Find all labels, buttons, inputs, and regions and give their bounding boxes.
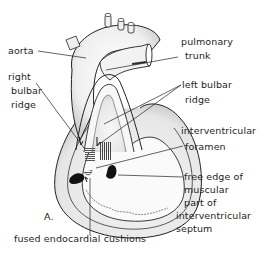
label-free-edge-5: septum (176, 223, 212, 234)
label-right-bulbar-ridge-2: bulbar (11, 85, 42, 96)
label-pulmonary-trunk-2: trunk (185, 50, 211, 61)
label-interventricular-foramen-1: interventricular (181, 125, 256, 136)
label-interventricular-foramen-2: foramen (185, 141, 226, 152)
label-left-bulbar-ridge-2: ridge (185, 94, 210, 105)
right-bulbar-ridge-shape (85, 148, 95, 162)
left-bulbar-ridge-shape (99, 142, 111, 160)
label-right-bulbar-ridge-3: ridge (11, 99, 36, 110)
label-pulmonary-trunk-1: pulmonary (181, 36, 233, 47)
label-free-edge-3: part of (184, 197, 216, 208)
label-left-bulbar-ridge-1: left bulbar (182, 79, 232, 90)
label-free-edge-2: muscular (184, 184, 229, 195)
heart-diagram: aorta pulmonary trunk right bulbar ridge… (0, 0, 269, 255)
label-free-edge-1: free edge of (184, 171, 243, 182)
label-fused-endocardial-cushions: fused endocardial cushions (14, 233, 146, 244)
label-right-bulbar-ridge-1: right (8, 71, 31, 82)
label-aorta: aorta (8, 45, 34, 56)
label-free-edge-4: interventricular (176, 210, 251, 221)
panel-label: A. (44, 211, 54, 222)
